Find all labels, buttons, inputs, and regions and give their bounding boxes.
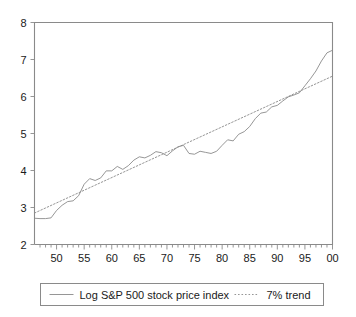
x-tick-label: 90	[271, 252, 283, 264]
x-tick-label: 00	[326, 252, 338, 264]
y-tick-label: 5	[20, 128, 26, 140]
y-tick-label: 2	[20, 239, 26, 251]
x-tick-label: 55	[78, 252, 90, 264]
chart-legend: Log S&P 500 stock price index7% trend	[41, 284, 324, 306]
y-tick-label: 3	[20, 202, 26, 214]
line-chart: 8765432 5055606570758085909500 Log S&P 5…	[0, 0, 356, 317]
x-tick-label: 80	[216, 252, 228, 264]
y-tick-label: 8	[20, 17, 26, 29]
x-tick-label: 75	[188, 252, 200, 264]
legend-label-sp500: Log S&P 500 stock price index	[80, 289, 230, 301]
x-tick-label: 70	[161, 252, 173, 264]
x-tick-label: 85	[244, 252, 256, 264]
y-tick-label: 6	[20, 91, 26, 103]
x-tick-label: 65	[133, 252, 145, 264]
x-tick-label: 95	[299, 252, 311, 264]
x-tick-label: 60	[106, 252, 118, 264]
x-tick-label: 50	[50, 252, 62, 264]
y-tick-label: 7	[20, 54, 26, 66]
chart-figure: 8765432 5055606570758085909500 Log S&P 5…	[0, 0, 356, 317]
legend-label-trend: 7% trend	[267, 289, 311, 301]
chart-background	[0, 0, 356, 317]
y-tick-label: 4	[20, 165, 26, 177]
